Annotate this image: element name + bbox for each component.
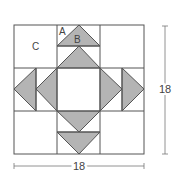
triangle-left-inner — [36, 68, 57, 111]
triangle-right-outer — [122, 68, 144, 111]
label-c: C — [32, 41, 39, 52]
width-label: 18 — [73, 160, 85, 172]
triangle-top-inner — [57, 46, 100, 68]
quilt-block-diagram: A B C 18 18 — [0, 0, 187, 178]
height-label: 18 — [159, 83, 171, 95]
label-a: A — [59, 26, 66, 37]
triangle-left-outer — [14, 68, 36, 111]
triangle-bottom-inner — [57, 111, 100, 132]
triangle-bottom-outer — [57, 132, 100, 154]
label-b: B — [74, 34, 81, 45]
triangle-right-inner — [100, 68, 122, 111]
